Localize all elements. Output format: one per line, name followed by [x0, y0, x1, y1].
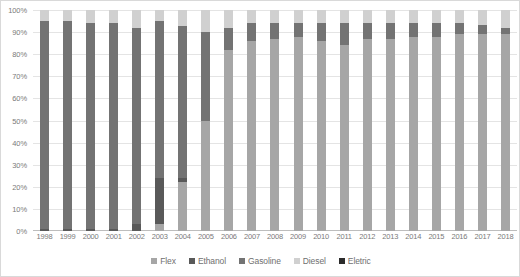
bar-segment-flex[interactable] [317, 41, 326, 231]
stacked-bar[interactable] [201, 10, 210, 231]
bar-segment-flex[interactable] [501, 34, 510, 231]
bar-column[interactable] [379, 10, 402, 231]
stacked-bar[interactable] [432, 10, 441, 231]
bar-column[interactable] [102, 10, 125, 231]
bar-segment-ethanol[interactable] [40, 229, 49, 231]
bar-segment-diesel[interactable] [340, 10, 349, 23]
stacked-bar[interactable] [294, 10, 303, 231]
bar-column[interactable] [240, 10, 263, 231]
bar-segment-diesel[interactable] [294, 10, 303, 23]
legend-item-diesel[interactable]: Diesel [294, 256, 326, 266]
bar-column[interactable] [79, 10, 102, 231]
bar-segment-gasoline[interactable] [294, 23, 303, 36]
bar-segment-flex[interactable] [455, 34, 464, 231]
bar-segment-diesel[interactable] [501, 10, 510, 28]
bar-segment-gasoline[interactable] [363, 23, 372, 38]
bar-column[interactable] [494, 10, 517, 231]
bar-segment-gasoline[interactable] [86, 23, 95, 229]
bar-segment-flex[interactable] [155, 224, 164, 231]
stacked-bar[interactable] [224, 10, 233, 231]
bar-segment-flex[interactable] [363, 39, 372, 231]
bar-segment-diesel[interactable] [386, 10, 395, 23]
bar-segment-diesel[interactable] [86, 10, 95, 23]
bar-segment-flex[interactable] [201, 121, 210, 232]
bar-column[interactable] [33, 10, 56, 231]
bar-segment-diesel[interactable] [178, 10, 187, 25]
bar-column[interactable] [194, 10, 217, 231]
bar-column[interactable] [56, 10, 79, 231]
stacked-bar[interactable] [132, 10, 141, 231]
bar-column[interactable] [471, 10, 494, 231]
bar-segment-flex[interactable] [178, 182, 187, 231]
bar-segment-ethanol[interactable] [63, 229, 72, 231]
bar-segment-flex[interactable] [340, 45, 349, 231]
stacked-bar[interactable] [178, 10, 187, 231]
bar-segment-gasoline[interactable] [40, 21, 49, 229]
bar-segment-gasoline[interactable] [270, 23, 279, 38]
stacked-bar[interactable] [270, 10, 279, 231]
bar-column[interactable] [402, 10, 425, 231]
stacked-bar[interactable] [340, 10, 349, 231]
bar-segment-flex[interactable] [247, 41, 256, 231]
stacked-bar[interactable] [317, 10, 326, 231]
bar-segment-flex[interactable] [478, 34, 487, 231]
bar-segment-ethanol[interactable] [132, 224, 141, 231]
bar-segment-diesel[interactable] [155, 10, 164, 21]
bar-segment-diesel[interactable] [478, 10, 487, 25]
bar-segment-gasoline[interactable] [409, 23, 418, 36]
bar-segment-ethanol[interactable] [155, 178, 164, 224]
bar-segment-diesel[interactable] [455, 10, 464, 23]
bar-segment-gasoline[interactable] [63, 21, 72, 229]
bar-segment-gasoline[interactable] [432, 23, 441, 36]
bar-segment-diesel[interactable] [224, 10, 233, 28]
bar-segment-gasoline[interactable] [247, 23, 256, 41]
bar-segment-flex[interactable] [409, 37, 418, 231]
bar-column[interactable] [171, 10, 194, 231]
bar-segment-flex[interactable] [294, 37, 303, 231]
bar-segment-diesel[interactable] [40, 10, 49, 21]
bar-segment-ethanol[interactable] [86, 229, 95, 231]
bar-segment-diesel[interactable] [432, 10, 441, 23]
bar-segment-diesel[interactable] [109, 10, 118, 23]
bar-segment-gasoline[interactable] [478, 25, 487, 34]
legend-item-ethanol[interactable]: Ethanol [189, 256, 226, 266]
bar-segment-diesel[interactable] [270, 10, 279, 23]
bar-segment-diesel[interactable] [247, 10, 256, 23]
bar-segment-diesel[interactable] [132, 10, 141, 28]
bar-column[interactable] [425, 10, 448, 231]
stacked-bar[interactable] [86, 10, 95, 231]
stacked-bar[interactable] [40, 10, 49, 231]
bar-segment-gasoline[interactable] [386, 23, 395, 38]
stacked-bar[interactable] [363, 10, 372, 231]
bar-segment-gasoline[interactable] [224, 28, 233, 50]
stacked-bar[interactable] [247, 10, 256, 231]
bar-segment-flex[interactable] [270, 39, 279, 231]
bar-segment-gasoline[interactable] [455, 23, 464, 34]
bar-segment-gasoline[interactable] [178, 26, 187, 178]
bar-segment-gasoline[interactable] [317, 23, 326, 41]
bar-segment-diesel[interactable] [363, 10, 372, 23]
bar-column[interactable] [125, 10, 148, 231]
stacked-bar[interactable] [501, 10, 510, 231]
bar-segment-diesel[interactable] [409, 10, 418, 23]
bar-segment-gasoline[interactable] [109, 23, 118, 229]
bar-segment-diesel[interactable] [63, 10, 72, 21]
bar-segment-flex[interactable] [432, 37, 441, 231]
bar-column[interactable] [263, 10, 286, 231]
bar-segment-gasoline[interactable] [155, 21, 164, 178]
legend-item-gasoline[interactable]: Gasoline [239, 256, 281, 266]
bar-segment-gasoline[interactable] [501, 28, 510, 35]
bar-column[interactable] [356, 10, 379, 231]
bar-column[interactable] [148, 10, 171, 231]
bar-segment-gasoline[interactable] [340, 23, 349, 45]
stacked-bar[interactable] [478, 10, 487, 231]
bar-segment-ethanol[interactable] [109, 229, 118, 231]
bar-column[interactable] [333, 10, 356, 231]
stacked-bar[interactable] [63, 10, 72, 231]
stacked-bar[interactable] [109, 10, 118, 231]
bar-segment-diesel[interactable] [317, 10, 326, 23]
stacked-bar[interactable] [155, 10, 164, 231]
bar-segment-flex[interactable] [224, 50, 233, 231]
bar-segment-flex[interactable] [386, 39, 395, 231]
bar-column[interactable] [448, 10, 471, 231]
